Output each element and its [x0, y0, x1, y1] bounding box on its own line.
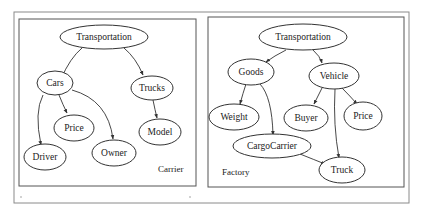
- svg-text:Truck: Truck: [331, 165, 354, 175]
- svg-text:Goods: Goods: [239, 67, 264, 77]
- node-cargocarrier: CargoCarrier: [233, 134, 311, 158]
- edge-vehicle-buyer: [314, 88, 322, 104]
- edge-trucks-model: [153, 100, 157, 118]
- svg-text:Price: Price: [64, 123, 84, 133]
- panel-label-carrier: Carrier: [158, 164, 183, 174]
- node-transportation: Transportation: [60, 25, 148, 49]
- svg-text:CargoCarrier: CargoCarrier: [247, 141, 298, 151]
- ontology-diagram: Transportation Cars Trucks Price Model D…: [0, 0, 421, 215]
- node-weight: Weight: [209, 104, 259, 130]
- edge-cars-price: [59, 95, 67, 113]
- node-model: Model: [139, 119, 181, 145]
- panel-carrier: Transportation Cars Trucks Price Model D…: [19, 19, 196, 186]
- node-buyer: Buyer: [284, 105, 328, 131]
- node-goods: Goods: [228, 59, 274, 85]
- edge-transportation-trucks: [124, 48, 143, 75]
- svg-text:Transportation: Transportation: [76, 32, 132, 42]
- node-truck: Truck: [319, 157, 365, 183]
- svg-text:Buyer: Buyer: [294, 113, 318, 123]
- edge-vehicle-price: [342, 88, 357, 104]
- svg-text:Owner: Owner: [101, 148, 128, 158]
- node-driver: Driver: [24, 144, 66, 170]
- node-cars: Cars: [37, 71, 73, 95]
- svg-text:Price: Price: [353, 111, 373, 121]
- svg-text:Cars: Cars: [46, 78, 64, 88]
- node-vehicle: Vehicle: [309, 63, 359, 89]
- panel-label-factory: Factory: [222, 167, 250, 177]
- edge-vehicle-truck: [335, 89, 340, 158]
- node-price: Price: [54, 115, 94, 141]
- svg-text:Vehicle: Vehicle: [320, 71, 349, 81]
- node-price: Price: [344, 102, 382, 130]
- edge-goods-weight: [240, 84, 246, 104]
- panel-factory: Transportation Goods Vehicle Weight Buye…: [208, 17, 404, 187]
- edge-transportation-goods: [266, 50, 286, 62]
- node-trucks: Trucks: [131, 76, 173, 100]
- edge-cargocarrier-truck: [300, 154, 325, 164]
- svg-text:Weight: Weight: [220, 112, 248, 122]
- svg-text:Driver: Driver: [33, 152, 59, 162]
- edge-cars-driver: [38, 95, 43, 145]
- edge-transportation-vehicle: [313, 50, 322, 63]
- node-owner: Owner: [92, 140, 136, 166]
- svg-text:Model: Model: [148, 127, 173, 137]
- edge-goods-cargocarrier: [260, 84, 273, 135]
- node-transportation: Transportation: [259, 24, 347, 50]
- svg-text:Transportation: Transportation: [275, 32, 331, 42]
- svg-text:Trucks: Trucks: [139, 83, 165, 93]
